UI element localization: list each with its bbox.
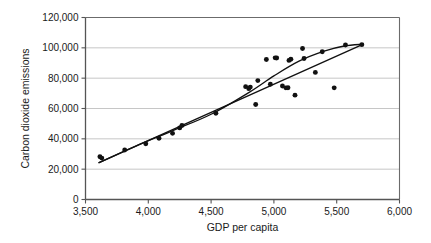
y-axis-title: Carbon dioxide emissions [19, 48, 31, 168]
data-point [180, 123, 185, 128]
data-point [288, 57, 293, 62]
x-axis-ticks: 3,5004,0004,5005,0005,5006,000 [73, 200, 412, 217]
chart-canvas: 020,00040,00060,00080,000100,000120,000 … [0, 0, 431, 243]
data-point [359, 42, 364, 47]
x-tick-label: 4,500 [199, 206, 224, 217]
y-tick-label: 80,000 [48, 73, 79, 84]
data-point [253, 102, 258, 107]
data-point [248, 85, 253, 90]
y-tick-label: 100,000 [42, 42, 79, 53]
x-tick-label: 4,000 [136, 206, 161, 217]
data-point [143, 141, 148, 146]
data-point [157, 136, 162, 141]
y-tick-label: 60,000 [48, 103, 79, 114]
x-tick-label: 6,000 [387, 206, 412, 217]
data-point [274, 56, 279, 61]
data-point [300, 46, 305, 51]
data-point [320, 49, 325, 54]
data-point [122, 148, 127, 153]
y-tick-label: 120,000 [42, 12, 79, 23]
data-point [213, 111, 218, 116]
data-point [255, 78, 260, 83]
x-tick-label: 5,500 [324, 206, 349, 217]
fit-lines [99, 44, 363, 162]
scatter-chart: 020,00040,00060,00080,000100,000120,000 … [0, 0, 431, 243]
data-point [268, 82, 273, 87]
data-point [332, 85, 337, 90]
data-point [343, 43, 348, 48]
y-tick-label: 0 [73, 194, 79, 205]
data-points [97, 42, 364, 160]
data-point [313, 70, 318, 75]
x-tick-label: 5,000 [261, 206, 286, 217]
data-point [293, 93, 298, 98]
data-point [170, 131, 175, 136]
data-point [302, 56, 307, 61]
y-tick-label: 40,000 [48, 133, 79, 144]
data-point [99, 156, 104, 161]
data-point [264, 57, 269, 62]
x-tick-label: 3,500 [73, 206, 98, 217]
x-axis-title: GDP per capita [207, 221, 279, 233]
data-point [286, 85, 291, 90]
y-tick-label: 20,000 [48, 164, 79, 175]
y-axis-ticks: 020,00040,00060,00080,000100,000120,000 [42, 12, 85, 205]
gridlines [86, 18, 400, 170]
